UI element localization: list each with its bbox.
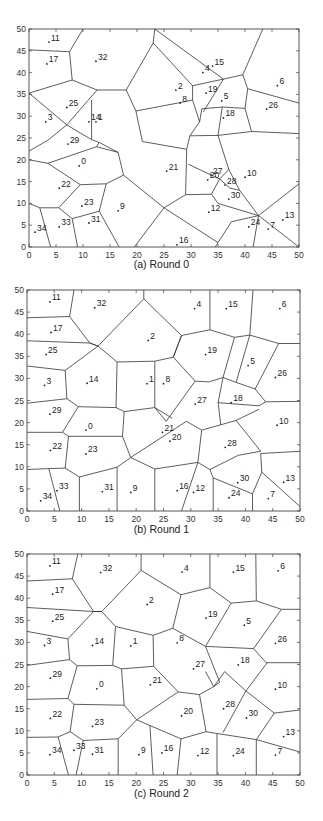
voronoi-edge	[177, 739, 181, 775]
voronoi-edge	[223, 691, 246, 733]
point-marker	[44, 645, 46, 647]
point-marker	[197, 755, 199, 757]
voronoi-edge	[154, 666, 214, 694]
point-marker	[161, 752, 163, 754]
point-marker	[96, 688, 98, 690]
point-marker	[138, 754, 140, 756]
point-marker	[275, 688, 277, 690]
voronoi-edge	[206, 646, 220, 686]
point-label: 0	[99, 679, 104, 689]
voronoi-edge	[68, 699, 124, 706]
point-label: 14	[95, 636, 105, 646]
point-marker	[49, 754, 51, 756]
point-marker	[92, 753, 94, 755]
point-marker	[223, 708, 225, 710]
point-label: 13	[286, 727, 296, 737]
point-marker	[181, 571, 183, 573]
y-tick-label: 15	[15, 704, 25, 714]
point-label: 34	[52, 745, 62, 755]
y-tick-label: 25	[15, 660, 25, 670]
point-marker	[193, 668, 195, 670]
point-marker	[283, 736, 285, 738]
point-label: 30	[248, 708, 258, 718]
voronoi-plot-round-2: 0510152025303540455005101520253035404550…	[0, 0, 323, 821]
point-label: 32	[103, 563, 113, 573]
voronoi-edges	[27, 554, 300, 775]
point-marker	[50, 677, 52, 679]
point-marker	[73, 749, 75, 751]
point-label: 27	[196, 659, 206, 669]
point-marker	[92, 725, 94, 727]
point-label: 28	[226, 699, 236, 709]
point-marker	[49, 565, 51, 567]
point-marker	[205, 617, 207, 619]
y-tick-label: 30	[15, 637, 25, 647]
voronoi-edge	[150, 726, 153, 776]
point-label: 18	[240, 655, 250, 665]
caption-round-2: (c) Round 2	[0, 787, 323, 799]
point-label: 15	[235, 563, 245, 573]
point-label: 23	[95, 717, 105, 727]
panel-round-2: 0510152025303540455005101520253035404550…	[0, 0, 323, 821]
point-label: 9	[141, 745, 146, 755]
point-marker	[232, 571, 234, 573]
point-label: 2	[149, 595, 154, 605]
y-tick-label: 10	[15, 726, 25, 736]
point-label: 19	[208, 609, 218, 619]
point-marker	[52, 593, 54, 595]
voronoi-edge	[274, 710, 300, 713]
point-label: 24	[235, 746, 245, 756]
point-marker	[92, 645, 94, 647]
point-label: 25	[55, 612, 65, 622]
voronoi-edge	[122, 669, 137, 720]
point-label: 16	[164, 743, 174, 753]
voronoi-edge	[27, 732, 70, 738]
point-label: 29	[52, 669, 62, 679]
point-marker	[146, 603, 148, 605]
voronoi-edge	[206, 646, 254, 648]
point-marker	[130, 645, 132, 647]
point-marker	[149, 684, 151, 686]
point-label: 1	[133, 636, 138, 646]
voronoi-edge	[256, 713, 274, 740]
point-label: 22	[52, 709, 62, 719]
y-tick-label: 45	[15, 571, 25, 581]
point-label: 8	[179, 633, 184, 643]
voronoi-edge	[210, 588, 231, 604]
y-tick-label: 0	[19, 770, 24, 780]
point-marker	[52, 620, 54, 622]
point-marker	[181, 715, 183, 717]
point-marker	[275, 754, 277, 756]
y-tick-label: 40	[15, 593, 25, 603]
point-marker	[176, 642, 178, 644]
point-label: 21	[152, 675, 162, 685]
point-label: 33	[76, 741, 86, 751]
voronoi-edge	[214, 672, 246, 691]
voronoi-edge	[256, 601, 300, 609]
point-label: 12	[200, 746, 210, 756]
point-marker	[246, 717, 248, 719]
point-label: 5	[246, 616, 251, 626]
data-points: 0123456789101112131415161718192021222324…	[44, 556, 296, 756]
point-label: 31	[95, 745, 105, 755]
point-marker	[100, 572, 102, 574]
y-tick-label: 35	[15, 615, 25, 625]
point-marker	[232, 755, 234, 757]
voronoi-edge	[200, 695, 207, 732]
point-label: 7	[277, 746, 282, 756]
y-tick-label: 20	[15, 682, 25, 692]
voronoi-edge	[58, 737, 68, 775]
point-marker	[50, 718, 52, 720]
voronoi-edge	[137, 692, 257, 740]
point-label: 20	[184, 706, 194, 716]
point-marker	[243, 624, 245, 626]
plot-frame	[27, 554, 300, 775]
y-tick-label: 5	[19, 748, 24, 758]
point-marker	[237, 664, 239, 666]
y-tick-label: 50	[15, 549, 25, 559]
voronoi-edge	[141, 570, 181, 594]
point-label: 17	[55, 585, 65, 595]
voronoi-edge	[246, 663, 267, 691]
point-label: 4	[184, 563, 189, 573]
point-marker	[277, 570, 279, 572]
